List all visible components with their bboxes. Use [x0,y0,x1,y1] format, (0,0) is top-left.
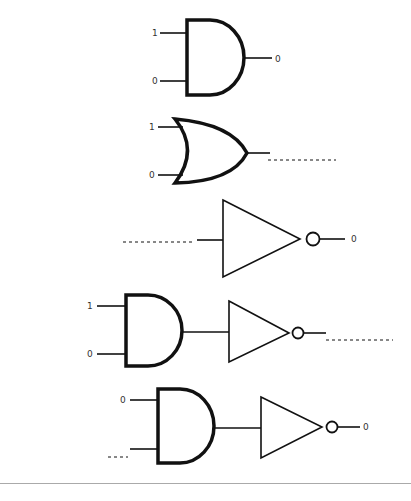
and-gate-body [158,389,214,463]
nand-gate-4: 1 0 [87,295,393,366]
and-gate-body [187,20,244,95]
g4-input-b-label: 0 [87,349,93,359]
not-gate-triangle [229,301,289,362]
logic-diagram: 1 0 0 1 0 0 1 0 [0,0,411,501]
g4-input-a-label: 1 [87,301,93,311]
g5-input-a-label: 0 [120,395,126,405]
g1-input-b-label: 0 [152,76,158,86]
g5-output-label: 0 [363,422,369,432]
not-gate-triangle [223,200,300,277]
g2-input-a-label: 1 [149,122,155,132]
not-bubble [307,233,320,246]
g2-input-b-label: 0 [149,170,155,180]
and-gate-1: 1 0 0 [152,20,281,95]
not-bubble [327,422,338,433]
not-gate-triangle [261,397,322,458]
and-gate-body [126,295,182,366]
not-bubble [293,328,304,339]
or-gate-2: 1 0 [149,119,336,183]
not-gate-3: 0 [123,200,357,277]
nand-gate-5: 0 0 [108,389,369,463]
g1-output-label: 0 [275,54,281,64]
g1-input-a-label: 1 [152,28,158,38]
g3-output-label: 0 [351,234,357,244]
or-gate-body [175,119,247,183]
